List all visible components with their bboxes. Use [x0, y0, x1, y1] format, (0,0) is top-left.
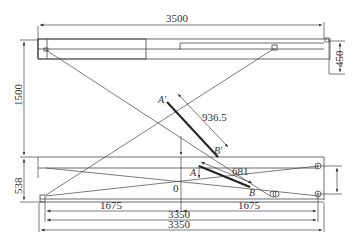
dimension-label-3350-outer: 3350	[168, 218, 191, 230]
dimension-label-936: 936.5	[202, 111, 227, 123]
label-b-prime: B'	[214, 145, 223, 156]
dimension-label-top: 3500	[166, 12, 189, 24]
dimension-label-681: 681	[232, 165, 249, 177]
scissor-arms	[46, 48, 320, 196]
origin-label: 0	[173, 182, 179, 194]
label-b: B	[249, 187, 255, 198]
dimension-label-1675-left: 1675	[100, 199, 123, 211]
top-platform	[38, 39, 330, 59]
label-a-prime: A'	[157, 94, 167, 105]
dimension-label-538: 538	[12, 177, 24, 194]
dimension-label-450: 450	[333, 50, 345, 67]
dimension-label-1675-right: 1675	[238, 199, 261, 211]
scissor-lift-drawing: 3500 450 1500 538	[0, 0, 354, 245]
dimension-label-1500: 1500	[12, 84, 24, 107]
dimension-3500	[38, 22, 324, 58]
label-a: A	[189, 167, 197, 178]
